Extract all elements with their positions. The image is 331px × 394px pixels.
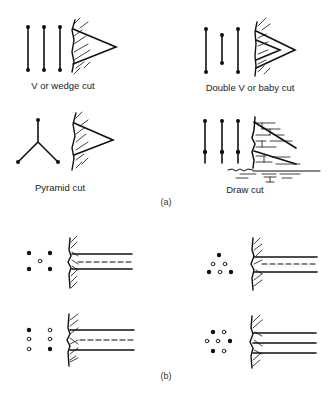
double-v-cut-drawing — [204, 18, 295, 76]
b-panel-1 — [27, 236, 132, 288]
b-panel-4 — [205, 315, 316, 368]
pyramid-cut-drawing — [16, 112, 113, 170]
b-panel-2 — [27, 314, 134, 366]
v-wedge-cut-drawing — [26, 18, 116, 74]
part-a-label: (a) — [161, 197, 172, 207]
caption-double-v-cut: Double V or baby cut — [206, 82, 295, 93]
caption-draw-cut: Draw cut — [226, 184, 263, 195]
b-panel-3 — [207, 238, 317, 290]
caption-v-wedge-cut: V or wedge cut — [31, 80, 94, 91]
part-b-label: (b) — [161, 371, 172, 381]
draw-cut-drawing — [203, 117, 320, 182]
caption-pyramid-cut: Pyramid cut — [35, 182, 85, 193]
